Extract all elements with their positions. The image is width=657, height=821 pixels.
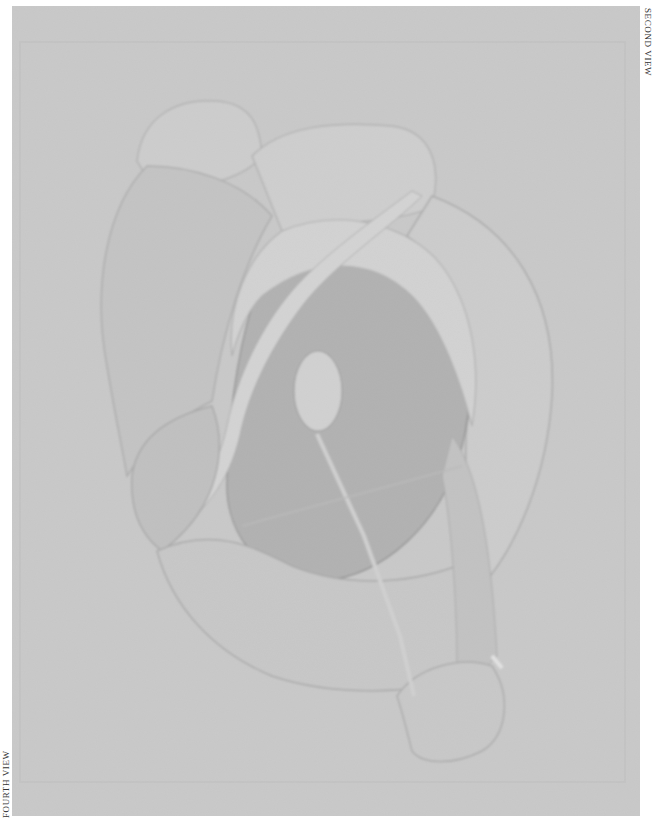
caption-fourth-view: FOURTH VIEW [1,750,11,818]
caption-second-view: SECOND VIEW [643,8,653,76]
abstract-form-illustration [12,6,640,816]
artwork-plate [12,6,640,816]
